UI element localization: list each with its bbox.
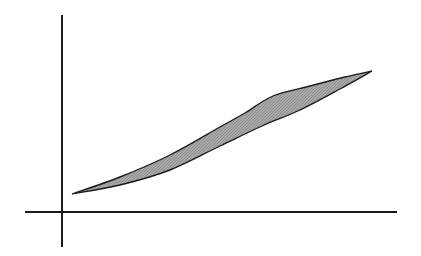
figure-canvas: [0, 0, 421, 256]
axes-group: [25, 15, 397, 247]
shaded-region-group: [72, 71, 372, 194]
figure-container: [0, 0, 421, 256]
shaded-lens-region: [72, 71, 372, 194]
